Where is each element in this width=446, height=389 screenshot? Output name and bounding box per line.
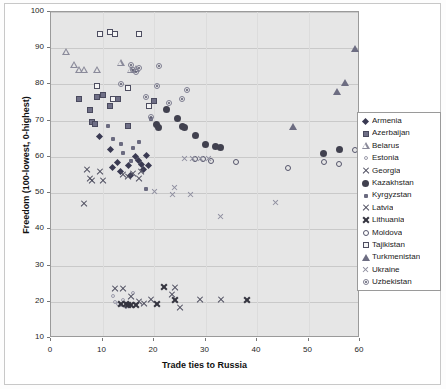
data-point-georgia	[97, 175, 108, 186]
legend-item-estonia[interactable]: Estonia	[360, 152, 438, 164]
y-tick-mark	[47, 156, 50, 157]
data-point-azerbaijan	[84, 104, 95, 115]
data-point-belarus	[61, 46, 72, 57]
y-tick-label: 100	[18, 7, 44, 15]
data-point-ukraine	[149, 186, 160, 197]
data-point-lithuania	[130, 300, 141, 311]
y-tick-mark	[47, 120, 50, 121]
data-point-azerbaijan	[74, 93, 85, 104]
data-point-georgia	[79, 198, 90, 209]
legend-marker-icon	[360, 153, 371, 164]
data-point-kyrgyzstan	[125, 155, 136, 166]
data-point-lithuania	[241, 294, 252, 305]
legend-label: Uzbekistan	[372, 276, 412, 288]
x-gridline	[309, 12, 310, 336]
data-point-ukraine	[185, 189, 196, 200]
data-point-kazakhstan	[334, 144, 345, 155]
x-tick-mark	[308, 338, 309, 341]
legend-label: Ukraine	[372, 264, 400, 276]
legend-item-ukraine[interactable]: Ukraine	[360, 264, 438, 276]
legend-item-uzbekistan[interactable]: Uzbekistan	[360, 276, 438, 288]
y-tick-mark	[47, 11, 50, 12]
y-tick-mark	[47, 192, 50, 193]
legend-marker-icon	[360, 165, 371, 176]
legend-item-azerbaijan[interactable]: Azerbaijan	[360, 127, 438, 139]
data-point-tajikistan	[107, 93, 118, 104]
data-point-moldova	[282, 162, 293, 173]
data-point-ukraine	[169, 182, 180, 193]
data-point-kazakhstan	[215, 142, 226, 153]
x-tick-mark	[205, 338, 206, 341]
legend-label: Belarus	[372, 140, 399, 152]
data-point-latvia	[195, 294, 206, 305]
legend-marker-icon	[360, 252, 371, 263]
legend-label: Armenia	[372, 115, 402, 127]
data-point-tajikistan	[92, 81, 103, 92]
data-point-moldova	[318, 157, 329, 168]
legend-item-armenia[interactable]: Armenia	[360, 115, 438, 127]
y-gridline	[51, 193, 358, 194]
data-point-latvia	[215, 294, 226, 305]
y-gridline	[51, 229, 358, 230]
data-point-tajikistan	[133, 28, 144, 39]
legend-marker-icon	[360, 140, 371, 151]
legend-marker-icon	[360, 190, 371, 201]
data-point-moldova	[334, 159, 345, 170]
y-axis-title: Freedom (100-lowest, 0-highest)	[21, 55, 31, 275]
y-tick-mark	[47, 83, 50, 84]
data-point-lithuania	[151, 298, 162, 309]
y-tick-label: 50	[18, 188, 44, 196]
y-tick-label: 40	[18, 224, 44, 232]
data-point-tajikistan	[110, 28, 121, 39]
x-tick-label: 0	[35, 346, 65, 354]
x-tick-label: 40	[241, 346, 271, 354]
data-point-uzbekistan	[151, 81, 162, 92]
legend-item-belarus[interactable]: Belarus	[360, 140, 438, 152]
legend-label: Latvia	[372, 202, 393, 214]
y-tick-label: 60	[18, 152, 44, 160]
legend-label: Lithuania	[372, 214, 404, 226]
data-point-azerbaijan	[89, 119, 100, 130]
y-tick-label: 30	[18, 261, 44, 269]
data-point-kyrgyzstan	[102, 121, 113, 132]
data-point-ukraine	[270, 197, 281, 208]
x-tick-label: 50	[293, 346, 323, 354]
x-tick-label: 10	[87, 346, 117, 354]
legend-item-kazakhstan[interactable]: Kazakhstan	[360, 177, 438, 189]
legend-label: Kyrgyzstan	[372, 189, 412, 201]
scatter-chart: Freedom (100-lowest, 0-highest) Trade ti…	[0, 0, 446, 389]
data-point-belarus	[79, 64, 90, 75]
legend-item-tajikistan[interactable]: Tajikistan	[360, 239, 438, 251]
y-tick-mark	[47, 228, 50, 229]
legend-marker-icon	[360, 178, 371, 189]
legend-label: Moldova	[372, 227, 402, 239]
data-point-turkmenistan	[349, 43, 360, 54]
y-tick-label: 80	[18, 79, 44, 87]
legend-item-latvia[interactable]: Latvia	[360, 202, 438, 214]
legend-item-kyrgyzstan[interactable]: Kyrgyzstan	[360, 189, 438, 201]
x-tick-label: 20	[138, 346, 168, 354]
x-tick-mark	[102, 338, 103, 341]
data-point-uzbekistan	[133, 63, 144, 74]
data-point-turkmenistan	[288, 121, 299, 132]
data-point-azerbaijan	[123, 121, 134, 132]
x-gridline	[257, 12, 258, 336]
y-gridline	[51, 12, 358, 13]
data-point-uzbekistan	[182, 84, 193, 95]
data-point-turkmenistan	[339, 77, 350, 88]
x-tick-mark	[256, 338, 257, 341]
y-gridline	[51, 266, 358, 267]
legend-label: Turkmenistan	[372, 251, 420, 263]
legend-label: Estonia	[372, 152, 399, 164]
legend-label: Tajikistan	[372, 239, 405, 251]
data-point-kyrgyzstan	[133, 137, 144, 148]
y-tick-mark	[47, 47, 50, 48]
legend-marker-icon	[360, 277, 371, 288]
legend-item-turkmenistan[interactable]: Turkmenistan	[360, 251, 438, 263]
legend-item-georgia[interactable]: Georgia	[360, 165, 438, 177]
x-tick-label: 30	[190, 346, 220, 354]
data-point-uzbekistan	[141, 92, 152, 103]
legend-item-lithuania[interactable]: Lithuania	[360, 214, 438, 226]
legend-item-moldova[interactable]: Moldova	[360, 227, 438, 239]
plot-area	[50, 11, 359, 337]
